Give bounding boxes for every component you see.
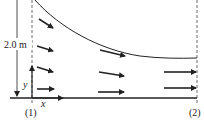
middle-velocity-arrows <box>98 50 125 92</box>
flow-diagram: 2.0 m y x (1) (2) <box>0 0 204 128</box>
section-2-label: (2) <box>189 107 201 119</box>
outlet-velocity-arrows <box>164 72 196 88</box>
x-axis-label: x <box>40 98 46 109</box>
section-1-label: (1) <box>25 107 37 119</box>
upper-boundary-curve <box>35 0 197 58</box>
inlet-velocity-arrows <box>37 19 54 89</box>
dimension-label: 2.0 m <box>4 39 27 50</box>
y-axis-label: y <box>22 79 28 90</box>
